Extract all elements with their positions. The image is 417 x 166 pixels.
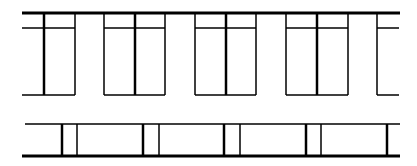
facade-drawing [0,0,417,166]
upper-window-row [22,13,400,95]
lower-post-strip [22,124,400,156]
